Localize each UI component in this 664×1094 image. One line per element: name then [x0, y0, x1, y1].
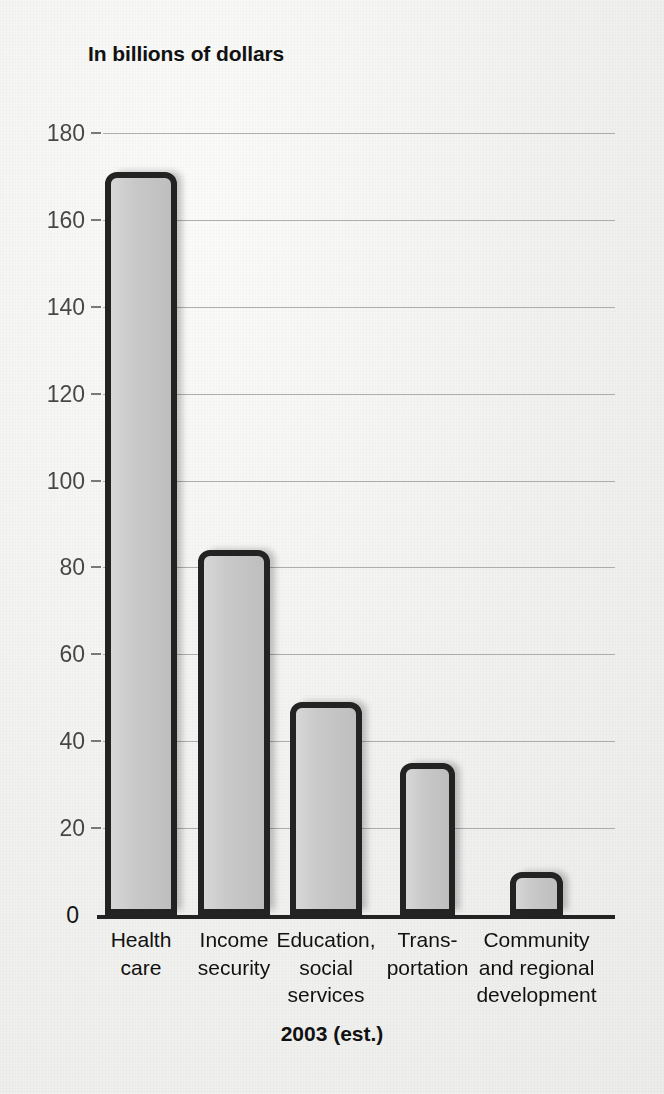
y-axis-tick-label: 60 [59, 641, 85, 668]
bar-sheen [516, 878, 557, 909]
x-axis-caption: 2003 (est.) [0, 1022, 664, 1046]
bar-slot [198, 133, 270, 915]
bar-chart-figure: In billions of dollars 02040608010012014… [0, 0, 664, 1094]
category-label-line: Community [466, 926, 608, 954]
x-axis-category-label: Communityand regionaldevelopment [466, 926, 608, 1009]
y-axis-tick-label: 140 [47, 293, 85, 320]
bar[interactable] [400, 763, 455, 915]
x-axis-baseline: 0 [97, 915, 615, 919]
bars-group [103, 133, 615, 915]
bar-sheen [406, 769, 449, 909]
y-axis-tick-mark [91, 132, 101, 134]
y-axis-tick-label: 0 [66, 902, 79, 929]
category-label-line: and regional [466, 954, 608, 982]
bar-sheen [111, 178, 171, 909]
y-axis-tick-label: 80 [59, 554, 85, 581]
y-axis-tick-mark [91, 480, 101, 482]
bar[interactable] [105, 172, 177, 915]
bar[interactable] [290, 702, 362, 915]
y-axis-tick-label: 180 [47, 120, 85, 147]
y-axis-tick-label: 120 [47, 380, 85, 407]
y-axis-tick-mark [91, 566, 101, 568]
bar-slot [290, 133, 362, 915]
category-label-line: development [466, 981, 608, 1009]
y-axis-tick-label: 20 [59, 815, 85, 842]
y-axis-tick-label: 160 [47, 206, 85, 233]
bar-slot [510, 133, 563, 915]
y-axis-tick-mark [91, 219, 101, 221]
y-axis-tick-label: 40 [59, 728, 85, 755]
bar-sheen [204, 556, 264, 909]
y-axis-tick-mark [91, 393, 101, 395]
bar[interactable] [510, 872, 563, 915]
category-label-line: services [255, 981, 397, 1009]
y-axis-tick-mark [91, 827, 101, 829]
bar[interactable] [198, 550, 270, 915]
y-axis-tick-mark [91, 306, 101, 308]
y-axis-tick-mark [91, 740, 101, 742]
chart-title: In billions of dollars [88, 42, 284, 66]
plot-area: 020406080100120140160180 [103, 133, 615, 915]
bar-sheen [296, 708, 356, 909]
y-axis-tick-label: 100 [47, 467, 85, 494]
bar-slot [105, 133, 177, 915]
y-axis-tick-mark [91, 653, 101, 655]
bar-slot [400, 133, 455, 915]
